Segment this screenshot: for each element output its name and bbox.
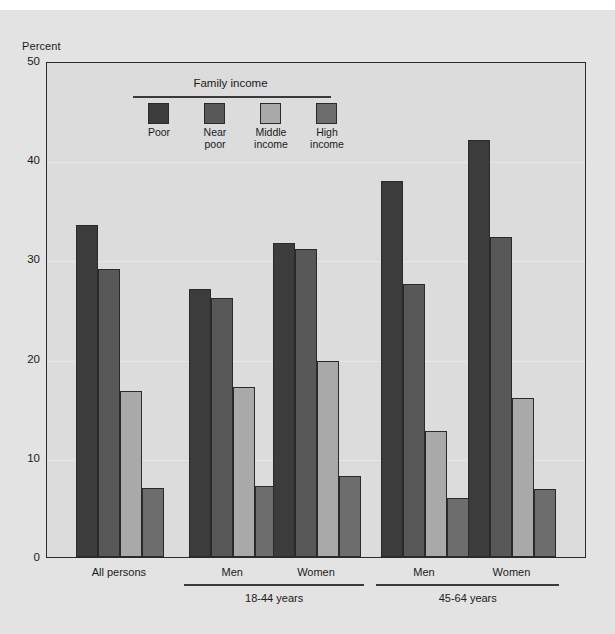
x-group-label-0: All persons — [64, 566, 174, 578]
legend-rule — [133, 96, 331, 98]
bar-women-2-poor — [273, 243, 295, 557]
bar-men-3-near-poor — [403, 284, 425, 557]
legend-label-line1: Near — [187, 127, 243, 139]
legend: Family income PoorNearpoorMiddleincomeHi… — [113, 77, 348, 155]
legend-swatch-poor — [148, 103, 169, 124]
plot-area: Family income PoorNearpoorMiddleincomeHi… — [46, 62, 586, 558]
page-top-margin — [0, 0, 615, 10]
y-tick-20: 20 — [6, 353, 40, 365]
legend-swatch-high — [316, 103, 337, 124]
x-group-label-2: Women — [261, 566, 371, 578]
chart-figure: Percent 50403020100 Family income PoorNe… — [0, 10, 615, 634]
bar-women-2-middle-income — [317, 361, 339, 557]
bar-men-1-middle-income — [233, 387, 255, 557]
legend-label-line2: income — [243, 139, 299, 151]
y-tick-30: 30 — [6, 253, 40, 265]
x-group-label-4: Women — [456, 566, 566, 578]
legend-label-near: Nearpoor — [187, 127, 243, 150]
legend-label-poor: Poor — [131, 127, 187, 139]
bar-women-4-middle-income — [512, 398, 534, 557]
legend-label-middle: Middleincome — [243, 127, 299, 150]
bar-women-4-high-income — [534, 489, 556, 557]
legend-label-line1: Middle — [243, 127, 299, 139]
legend-label-high: Highincome — [299, 127, 355, 150]
y-tick-40: 40 — [6, 154, 40, 166]
bar-women-4-near-poor — [490, 237, 512, 557]
bar-men-3-poor — [381, 181, 403, 557]
legend-title: Family income — [113, 77, 348, 89]
x-super-label-0: 18-44 years — [184, 592, 364, 604]
bar-all-persons-0-middle-income — [120, 391, 142, 557]
legend-label-line1: Poor — [131, 127, 187, 139]
bar-all-persons-0-near-poor — [98, 269, 120, 557]
bar-all-persons-0-high-income — [142, 488, 164, 557]
y-axis-title: Percent — [22, 40, 61, 52]
x-super-rule-0 — [184, 584, 364, 586]
bar-women-2-near-poor — [295, 249, 317, 557]
legend-label-line2: income — [299, 139, 355, 151]
bar-men-3-high-income — [447, 498, 469, 557]
x-super-label-1: 45-64 years — [376, 592, 559, 604]
legend-swatch-near — [204, 103, 225, 124]
bar-women-4-poor — [468, 140, 490, 557]
bar-men-1-poor — [189, 289, 211, 557]
y-tick-10: 10 — [6, 452, 40, 464]
bar-women-2-high-income — [339, 476, 361, 557]
legend-label-line2: poor — [187, 139, 243, 151]
x-super-rule-1 — [376, 584, 559, 586]
bar-all-persons-0-poor — [76, 225, 98, 557]
legend-label-line1: High — [299, 127, 355, 139]
y-tick-0: 0 — [6, 551, 40, 563]
y-tick-50: 50 — [6, 55, 40, 67]
bar-men-3-middle-income — [425, 431, 447, 557]
bar-men-1-near-poor — [211, 298, 233, 557]
legend-swatch-middle — [260, 103, 281, 124]
